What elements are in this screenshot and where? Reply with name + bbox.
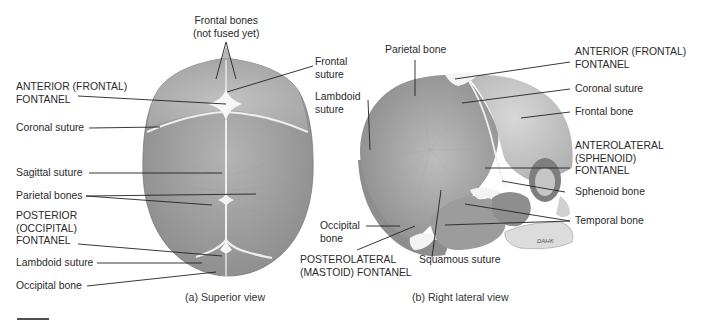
label-sagittal-suture: Sagittal suture xyxy=(16,167,82,180)
label-lambdoid-suture-b: Lambdoid suture xyxy=(315,91,361,116)
label-posterolateral-fontanel: POSTEROLATERAL (MASTOID) FONTANEL xyxy=(300,254,412,279)
label-coronal-suture-b: Coronal suture xyxy=(575,83,643,96)
label-frontal-bones: Frontal bones (not fused yet) xyxy=(193,15,259,40)
label-parietal-bone: Parietal bone xyxy=(385,44,446,57)
label-anterior-fontanel-b: ANTERIOR (FRONTAL) FONTANEL xyxy=(575,46,686,71)
label-squamous-suture: Squamous suture xyxy=(419,254,500,267)
artist-signature: DAHK xyxy=(537,235,554,248)
label-parietal-bones: Parietal bones xyxy=(16,190,82,203)
label-occipital-bone-b: Occipital bone xyxy=(320,220,360,245)
label-lambdoid-suture-a: Lambdoid suture xyxy=(16,257,93,270)
superior-view-skull xyxy=(143,46,313,276)
label-anterior-fontanel-a: ANTERIOR (FRONTAL) FONTANEL xyxy=(16,81,127,106)
label-frontal-suture: Frontal suture xyxy=(315,56,347,81)
label-occipital-bone-a: Occipital bone xyxy=(16,280,82,293)
label-frontal-bone: Frontal bone xyxy=(575,106,633,119)
label-posterior-fontanel: POSTERIOR (OCCIPITAL) FONTANEL xyxy=(16,210,77,248)
lateral-view-skull xyxy=(358,73,573,257)
caption-lateral-view: (b) Right lateral view xyxy=(412,291,509,304)
label-temporal-bone: Temporal bone xyxy=(575,215,644,228)
fetal-skull-figure: Frontal bones (not fused yet) Frontal su… xyxy=(0,0,705,322)
label-sphenoid-bone: Sphenoid bone xyxy=(575,186,645,199)
label-anterolateral-fontanel: ANTEROLATERAL (SPHENOID) FONTANEL xyxy=(575,140,664,178)
label-coronal-suture-a: Coronal suture xyxy=(16,122,84,135)
caption-superior-view: (a) Superior view xyxy=(185,291,265,304)
